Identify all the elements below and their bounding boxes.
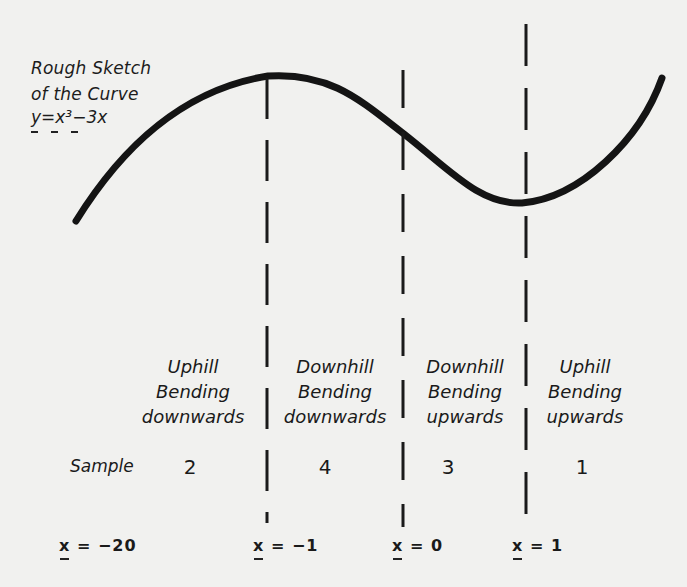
sample-value-region-4: 1 [567, 455, 597, 479]
x-marker-0: x = 0 [392, 536, 443, 555]
region-downhill-bending-upwards: Downhill Bending upwards [405, 354, 525, 429]
x-op: = [77, 536, 91, 555]
curve-equation: y=x³−3x [31, 107, 107, 127]
equation-underline [31, 131, 91, 133]
x-var: x [392, 536, 403, 555]
region-line-1: Uphill [133, 354, 253, 379]
cubic-curve [76, 76, 662, 221]
region-line-1: Downhill [275, 354, 395, 379]
region-line-2: Bending [275, 379, 395, 404]
sample-value-region-1: 2 [175, 455, 205, 479]
x-value: 1 [551, 536, 563, 555]
x-marker-1: x = 1 [512, 536, 563, 555]
x-op: = [530, 536, 544, 555]
x-value: −1 [292, 536, 319, 555]
x-value: 0 [431, 536, 443, 555]
x-op: = [410, 536, 424, 555]
region-downhill-bending-downwards: Downhill Bending downwards [275, 354, 395, 429]
x-var: x [59, 536, 70, 555]
region-line-2: Bending [133, 379, 253, 404]
region-line-1: Downhill [405, 354, 525, 379]
title-line-2: of the Curve [31, 81, 151, 107]
region-uphill-bending-downwards: Uphill Bending downwards [133, 354, 253, 429]
region-line-3: upwards [525, 404, 645, 429]
x-marker-minus-20: x = −20 [59, 536, 137, 555]
region-line-2: Bending [405, 379, 525, 404]
region-line-1: Uphill [525, 354, 645, 379]
region-line-3: downwards [133, 404, 253, 429]
x-var: x [253, 536, 264, 555]
equation-text: y=x³−3x [31, 107, 107, 127]
title-line-1: Rough Sketch [31, 55, 151, 81]
diagram-title: Rough Sketch of the Curve [31, 55, 151, 107]
sample-label: Sample [70, 456, 134, 476]
sample-value-region-2: 4 [310, 455, 340, 479]
region-uphill-bending-upwards: Uphill Bending upwards [525, 354, 645, 429]
region-line-3: upwards [405, 404, 525, 429]
region-line-2: Bending [525, 379, 645, 404]
x-var: x [512, 536, 523, 555]
x-op: = [271, 536, 285, 555]
region-line-3: downwards [275, 404, 395, 429]
x-value: −20 [98, 536, 137, 555]
x-marker-minus-1: x = −1 [253, 536, 318, 555]
sample-value-region-3: 3 [433, 455, 463, 479]
